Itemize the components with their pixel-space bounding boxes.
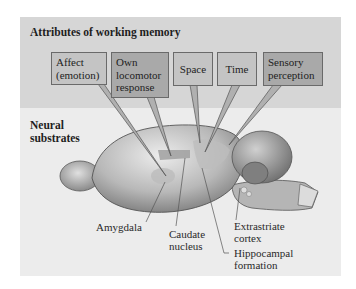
attribute-box-sensory: Sensory perception xyxy=(263,52,323,86)
label-line: formation xyxy=(234,259,293,271)
attribute-line: Sensory xyxy=(268,56,318,69)
inferior-colliculus xyxy=(242,162,268,184)
label-line: nucleus xyxy=(169,240,205,252)
attribute-box-affect: Affect (emotion) xyxy=(51,52,107,85)
attribute-line: perception xyxy=(268,69,318,82)
label-line: Caudate xyxy=(169,228,205,240)
label-line: Amygdala xyxy=(96,221,142,233)
label-amygdala: Amygdala xyxy=(96,221,142,233)
attribute-line: (emotion) xyxy=(56,69,102,82)
label-extrastriate-cortex: Extrastriate cortex xyxy=(234,220,285,244)
attribute-line: response xyxy=(116,81,164,94)
attributes-title: Attributes of working memory xyxy=(30,26,180,38)
attribute-line: Time xyxy=(226,63,249,76)
label-line: cortex xyxy=(234,232,285,244)
subtitle-text: Neural substrates xyxy=(30,119,90,144)
label-caudate-nucleus: Caudate nucleus xyxy=(169,228,205,252)
attribute-line: Space xyxy=(180,63,206,76)
label-line: Extrastriate xyxy=(234,220,285,232)
attribute-box-time: Time xyxy=(217,52,257,86)
label-hippocampal-formation: Hippocampal formation xyxy=(234,247,293,271)
attribute-line: Affect xyxy=(56,56,102,69)
attribute-line: locomotor xyxy=(116,69,164,82)
attribute-box-space: Space xyxy=(173,52,213,86)
attribute-box-locomotor: Own locomotor response xyxy=(111,52,169,98)
brainstem xyxy=(232,180,318,210)
attribute-line: Own xyxy=(116,56,164,69)
amygdala-region xyxy=(151,168,175,184)
neural-substrates-title: Neural substrates xyxy=(30,119,90,144)
label-line: Hippocampal xyxy=(234,247,293,259)
cerebrum xyxy=(92,125,244,212)
